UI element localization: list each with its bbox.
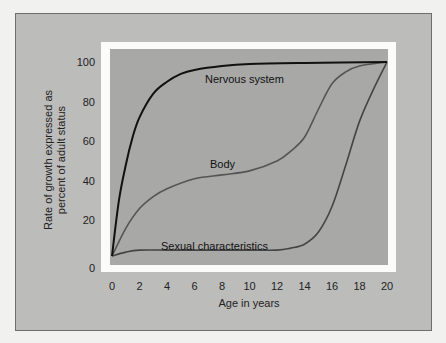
annotation-sexual-characteristics: Sexual characteristics [161, 240, 268, 252]
series-line-body [112, 62, 387, 256]
chart-lines [0, 0, 446, 343]
series-line-sexual-characteristics [112, 62, 387, 256]
annotation-body: Body [210, 158, 235, 170]
series-line-nervous-system [112, 62, 387, 256]
annotation-nervous-system: Nervous system [205, 73, 284, 85]
